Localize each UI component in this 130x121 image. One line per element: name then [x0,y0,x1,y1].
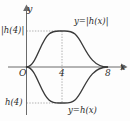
y-axis-label: y [27,4,32,14]
y-value-label-h4: h(4) [5,98,23,107]
x-tick-label-4: 4 [59,69,65,78]
curve-upper-abs-h [27,31,108,67]
function-graph-figure: y x O 4 8 |h(4)| h(4) y=|h(x)| y=h(x) [0,0,130,121]
curve-label-h: y=h(x) [68,106,97,115]
x-tick-label-8: 8 [105,69,111,78]
curve-label-abs-h: y=|h(x)| [74,17,109,26]
x-axis-label: x [120,62,125,72]
curve-lower-h [27,67,108,103]
origin-label: O [19,69,26,78]
y-value-label-abs-h4: |h(4)| [1,26,24,35]
